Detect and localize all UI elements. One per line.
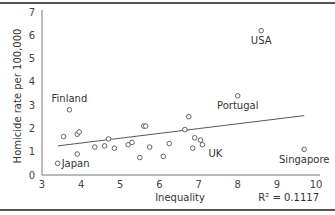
- y-tick-label: 7: [29, 7, 35, 18]
- point-portugal: [235, 94, 240, 99]
- r-squared-annotation: R² = 0.1117: [258, 192, 319, 203]
- y-tick-label: 0: [29, 170, 35, 181]
- x-tick-label: 5: [117, 179, 123, 190]
- data-point: [192, 135, 197, 140]
- data-point: [198, 138, 203, 143]
- data-point: [143, 124, 148, 129]
- x-ticks: 345678910: [39, 179, 323, 190]
- label-portugal: Portugal: [217, 100, 258, 111]
- x-tick-label: 6: [156, 179, 162, 190]
- x-tick-label: 3: [39, 179, 45, 190]
- y-tick-label: 2: [29, 123, 35, 134]
- point-japan: [55, 161, 60, 166]
- y-ticks: 01234567: [29, 7, 35, 181]
- trendline-group: [58, 116, 305, 146]
- y-tick-label: 6: [29, 30, 35, 41]
- data-point: [102, 144, 107, 149]
- y-tick-label: 1: [29, 146, 35, 157]
- data-point: [147, 145, 152, 150]
- y-tick-label: 3: [29, 100, 35, 111]
- label-uk: UK: [208, 148, 222, 159]
- label-japan: Japan: [61, 158, 90, 169]
- label-singapore: Singapore: [279, 154, 329, 165]
- x-tick-label: 10: [310, 179, 323, 190]
- data-point: [93, 145, 98, 150]
- data-point: [161, 154, 166, 159]
- data-point: [61, 134, 66, 139]
- point-uk: [200, 142, 205, 147]
- x-tick-label: 9: [274, 179, 280, 190]
- trendline: [58, 116, 305, 146]
- y-axis-title: Homicide rate per 100,000: [12, 29, 23, 164]
- x-tick-label: 7: [195, 179, 201, 190]
- x-tick-label: 4: [78, 179, 84, 190]
- data-point: [75, 152, 80, 157]
- x-tick-label: 8: [235, 179, 241, 190]
- data-point: [167, 141, 172, 146]
- data-point: [183, 127, 188, 132]
- data-point: [190, 146, 195, 151]
- label-finland: Finland: [52, 93, 88, 104]
- point-finland: [67, 108, 72, 113]
- y-tick-label: 4: [29, 76, 35, 87]
- label-usa: USA: [251, 35, 272, 46]
- data-point: [130, 140, 135, 145]
- point-usa: [259, 28, 264, 33]
- data-point: [186, 114, 191, 119]
- points-group: [55, 28, 306, 165]
- data-point: [112, 146, 117, 151]
- data-point: [77, 130, 82, 135]
- data-point: [106, 137, 111, 142]
- scatter-chart: 01234567 345678910 JapanFinlandUSAPortug…: [0, 0, 335, 215]
- y-tick-label: 5: [29, 53, 35, 64]
- point-singapore: [302, 147, 307, 152]
- x-axis-title: Inequality: [155, 192, 205, 203]
- data-point: [138, 155, 143, 160]
